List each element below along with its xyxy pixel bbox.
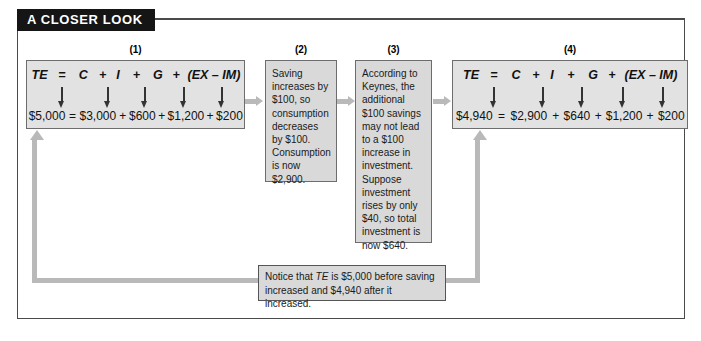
eq1-val-g: $1,200	[167, 109, 205, 123]
equation-panel-4: TE = C + I + G + (EX – IM) $4,940 = $2,9…	[452, 60, 688, 129]
eq1-sym-op3: +	[168, 68, 184, 82]
eq4-val-c: $2,900	[508, 109, 551, 123]
eq1-sym-op2: +	[126, 68, 147, 82]
closer-look-figure: A CLOSER LOOK (1) (2) (3) (4) TE = C + I…	[0, 0, 701, 341]
feedback-connector-right	[440, 130, 530, 285]
caption-line1-italic: TE	[316, 271, 329, 282]
equation-4-values: $4,940 = $2,900 + $640 + $1,200 + $200	[453, 109, 687, 123]
eq1-val-i: $600	[128, 109, 157, 123]
panel-number-3: (3)	[355, 44, 432, 55]
eq1-arrow-g	[179, 87, 188, 109]
text-panel-2: Saving increases by $100, so consumption…	[265, 60, 337, 182]
panel-number-1: (1)	[26, 44, 245, 55]
eq1-arrow-c	[103, 87, 112, 109]
eq4-val-g: $1,200	[604, 109, 645, 123]
eq4-arrow-g	[618, 87, 627, 109]
eq1-sym-op1: +	[95, 68, 111, 82]
eq4-val-op1: +	[550, 109, 561, 123]
panel-number-4: (4)	[452, 44, 688, 55]
equation-1-values: $5,000 = $3,000 + $600 + $1,200 + $200	[27, 109, 244, 123]
equation-1-symbols: TE = C + I + G + (EX – IM)	[27, 68, 244, 82]
equation-panel-1: TE = C + I + G + (EX – IM) $5,000 = $3,0…	[26, 60, 245, 129]
eq1-val-nx: $200	[215, 109, 244, 123]
eq1-arrow-i	[140, 87, 149, 109]
figure-header-banner: A CLOSER LOOK	[17, 9, 155, 31]
eq4-sym-i: I	[544, 68, 560, 82]
eq4-sym-nx: (EX – IM)	[620, 68, 682, 82]
header-rule	[140, 19, 685, 20]
eq1-sym-g: G	[147, 68, 168, 82]
eq4-sym-eq: =	[484, 68, 504, 82]
eq4-sym-op3: +	[604, 68, 620, 82]
eq1-sym-eq: =	[52, 68, 71, 82]
eq1-val-op2: +	[157, 109, 167, 123]
eq1-arrow-nx	[217, 87, 226, 109]
eq4-val-te: $4,940	[453, 109, 496, 123]
eq1-val-op1: +	[118, 109, 128, 123]
eq4-val-op2: +	[593, 109, 604, 123]
eq1-val-eq: =	[67, 109, 78, 123]
eq4-sym-g: G	[582, 68, 604, 82]
panel-number-2: (2)	[265, 44, 337, 55]
eq1-val-c: $3,000	[78, 109, 118, 123]
eq1-sym-nx: (EX – IM)	[184, 68, 244, 82]
eq4-sym-te: TE	[458, 68, 484, 82]
text-panel-3: According to Keynes, the additional $100…	[355, 60, 432, 243]
flow-arrow-3-to-4	[433, 96, 451, 107]
eq1-arrow-te	[57, 87, 66, 109]
flow-arrow-2-to-3	[337, 96, 355, 107]
eq4-val-i: $640	[561, 109, 592, 123]
eq1-sym-i: I	[110, 68, 126, 82]
eq4-arrow-nx	[658, 87, 667, 109]
eq4-val-op3: +	[644, 109, 655, 123]
caption-box: Notice that TE is $5,000 before saving i…	[258, 265, 446, 301]
eq1-val-te: $5,000	[27, 109, 67, 123]
eq4-sym-op2: +	[560, 68, 582, 82]
eq4-arrow-te	[489, 87, 498, 109]
eq1-sym-te: TE	[27, 68, 52, 82]
eq4-sym-c: C	[504, 68, 528, 82]
feedback-connector-left	[30, 130, 265, 285]
caption-line1-pre: Notice that	[265, 271, 316, 282]
equation-4-symbols: TE = C + I + G + (EX – IM)	[453, 68, 687, 82]
eq4-arrow-i	[577, 87, 586, 109]
eq1-sym-c: C	[72, 68, 95, 82]
eq1-val-op3: +	[205, 109, 215, 123]
eq4-arrow-c	[538, 87, 547, 109]
flow-arrow-1-to-2	[245, 96, 263, 107]
caption-line1-post: is $5,000 before saving	[328, 271, 434, 282]
eq4-val-eq: =	[496, 109, 508, 123]
eq4-val-nx: $200	[656, 109, 687, 123]
eq4-sym-op1: +	[528, 68, 544, 82]
